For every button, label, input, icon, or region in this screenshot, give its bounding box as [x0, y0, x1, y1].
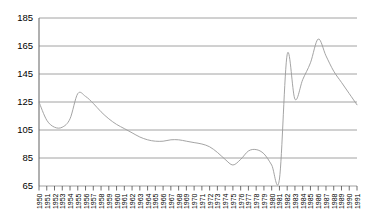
x-tick-label: 1951: [44, 193, 51, 209]
x-tick-label: 1975: [230, 193, 237, 209]
x-tick-label: 1986: [315, 193, 322, 209]
x-tick-label: 1971: [199, 193, 206, 209]
y-tick-label: 105: [17, 124, 33, 135]
x-tick-label: 1987: [323, 193, 330, 209]
x-tick-label: 1964: [145, 193, 152, 209]
x-tick-label: 1953: [59, 193, 66, 209]
x-tick-label: 1961: [121, 193, 128, 209]
x-tick-label: 1983: [292, 193, 299, 209]
x-tick-labels-group: 1950195119521953195419551956195719581959…: [36, 193, 361, 209]
x-tick-label: 1988: [331, 193, 338, 209]
x-tick-label: 1974: [222, 193, 229, 209]
y-tick-label: 85: [22, 152, 33, 163]
x-tick-label: 1977: [245, 193, 252, 209]
x-tick-label: 1972: [207, 193, 214, 209]
x-tick-label: 1973: [214, 193, 221, 209]
data-series-group: [39, 39, 357, 185]
x-tick-label: 1978: [253, 193, 260, 209]
x-tick-label: 1968: [176, 193, 183, 209]
y-tick-label: 65: [22, 180, 33, 191]
x-tick-label: 1962: [129, 193, 136, 209]
line-chart-figure: 6585105125145165185 19501951195219531954…: [0, 0, 377, 223]
x-tick-label: 1955: [75, 193, 82, 209]
x-tick-label: 1957: [90, 193, 97, 209]
x-tick-label: 1990: [346, 193, 353, 209]
gridlines-group: [39, 18, 357, 186]
x-tick-label: 1954: [67, 193, 74, 209]
y-tick-label: 185: [17, 12, 33, 23]
x-tick-label: 1980: [269, 193, 276, 209]
y-tick-label: 125: [17, 96, 33, 107]
x-tick-label: 1956: [83, 193, 90, 209]
x-tick-label: 1991: [354, 193, 361, 209]
x-tick-label: 1979: [261, 193, 268, 209]
x-tick-label: 1966: [160, 193, 167, 209]
x-tick-label: 1989: [338, 193, 345, 209]
x-tick-label: 1965: [152, 193, 159, 209]
x-tick-label: 1969: [183, 193, 190, 209]
x-tick-label: 1984: [300, 193, 307, 209]
x-tickmarks-group: [39, 186, 357, 191]
y-tick-label: 165: [17, 40, 33, 51]
x-tick-label: 1981: [276, 193, 283, 209]
x-tick-label: 1963: [137, 193, 144, 209]
y-tick-labels-group: 6585105125145165185: [17, 12, 33, 191]
x-tick-label: 1960: [114, 193, 121, 209]
x-tick-label: 1958: [98, 193, 105, 209]
series-line-1: [39, 39, 357, 185]
x-tick-label: 1982: [284, 193, 291, 209]
x-tick-label: 1967: [168, 193, 175, 209]
x-tick-label: 1985: [307, 193, 314, 209]
chart-canvas: 6585105125145165185 19501951195219531954…: [0, 0, 377, 223]
x-tick-label: 1976: [238, 193, 245, 209]
x-tick-label: 1970: [191, 193, 198, 209]
x-tick-label: 1952: [52, 193, 59, 209]
x-tick-label: 1959: [106, 193, 113, 209]
x-tick-label: 1950: [36, 193, 43, 209]
y-tick-label: 145: [17, 68, 33, 79]
